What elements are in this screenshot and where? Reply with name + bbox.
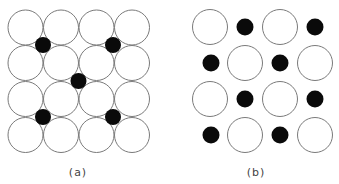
- small-atom-dot: [237, 19, 254, 36]
- large-atom-circle: [263, 82, 298, 117]
- panel-a-diagram: [8, 10, 150, 153]
- large-atom-circle: [228, 46, 263, 81]
- small-atom-dot: [203, 127, 220, 144]
- large-atom-circle: [228, 118, 263, 153]
- small-atom-dot: [272, 127, 289, 144]
- large-atom-circle: [115, 46, 150, 81]
- large-atom-circle: [263, 10, 298, 45]
- large-atom-circle: [44, 118, 79, 153]
- large-atom-circle: [115, 10, 150, 45]
- small-atom-dot: [105, 37, 121, 53]
- small-atom-dot: [272, 55, 289, 72]
- large-atom-circle: [115, 82, 150, 117]
- panel-a-caption: (a): [69, 166, 87, 179]
- large-atom-circle: [298, 46, 333, 81]
- small-atom-dot: [35, 37, 51, 53]
- lattice-figure: (a) (b): [0, 0, 339, 184]
- large-atom-circle: [115, 118, 150, 153]
- large-atom-circle: [298, 118, 333, 153]
- small-atom-dot: [307, 19, 324, 36]
- small-atom-dot: [105, 109, 121, 125]
- panel-b-caption: (b): [247, 166, 266, 179]
- large-atom-circle: [193, 82, 228, 117]
- small-atom-dot: [71, 73, 87, 89]
- small-atom-dot: [237, 91, 254, 108]
- small-atom-dot: [307, 91, 324, 108]
- small-atom-dot: [35, 109, 51, 125]
- figure-canvas: [0, 0, 339, 184]
- large-atom-circle: [193, 10, 228, 45]
- panel-b-diagram: [193, 10, 333, 153]
- small-atom-dot: [203, 55, 220, 72]
